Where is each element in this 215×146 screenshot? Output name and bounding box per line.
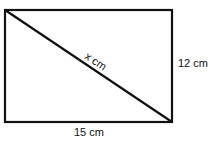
rectangle-diagram: x cm 12 cm 15 cm: [0, 0, 215, 146]
diagonal-line: [5, 10, 172, 122]
height-label: 12 cm: [178, 57, 208, 69]
diagonal-label: x cm: [83, 50, 109, 73]
width-label: 15 cm: [74, 126, 104, 138]
